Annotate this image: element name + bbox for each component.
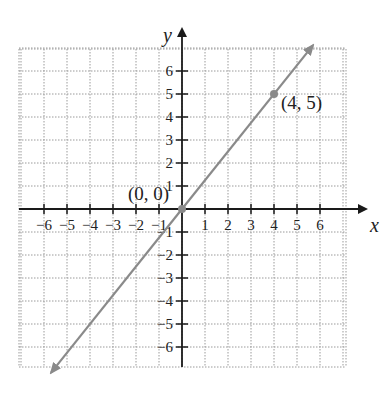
data-point [270,90,278,98]
x-tick-label: 2 [224,217,232,233]
x-axis-label: x [369,214,379,236]
x-tick-label: −3 [105,217,121,233]
y-tick-label: 4 [166,109,174,125]
line-upper-segment [182,45,313,209]
x-tick-label: 3 [247,217,255,233]
y-tick-label: 5 [166,86,174,102]
x-tick-label: −4 [82,217,98,233]
x-tick-label: −5 [59,217,75,233]
x-tick-label: −6 [36,217,52,233]
x-tick-label: 4 [270,217,278,233]
x-tick-label: −2 [128,217,144,233]
y-tick-label: 2 [166,155,174,171]
coordinate-plane: −6−5−4−3−2−1123456−6−5−4−3−2−1123456 x y… [0,0,389,402]
y-axis-label: y [161,24,172,47]
y-tick-label: −2 [157,247,173,263]
y-tick-label: 6 [166,63,174,79]
axes [19,29,366,367]
point-label: (4, 5) [281,92,322,114]
x-tick-label: 1 [201,217,209,233]
y-tick-label: −6 [157,339,173,355]
x-tick-label: 6 [316,217,324,233]
y-tick-label: −5 [157,316,173,332]
x-tick-label: 5 [293,217,301,233]
data-point [178,205,186,213]
y-tick-label: −3 [157,270,173,286]
origin-label: (0, 0) [128,183,169,205]
y-tick-label: −4 [157,293,173,309]
y-tick-label: 3 [166,132,174,148]
